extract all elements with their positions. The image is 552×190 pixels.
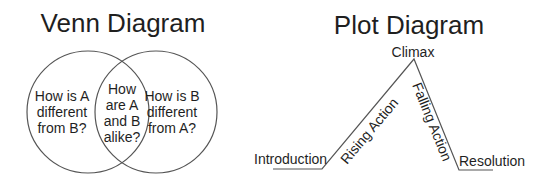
falling-action-label: Falling Action: [409, 80, 455, 163]
venn-middle-line: alike?: [104, 129, 141, 145]
introduction-label: Introduction: [254, 151, 327, 167]
diagram-canvas: Venn Diagram How is A different from B? …: [0, 0, 552, 190]
venn-middle-text: How are A and B alike?: [104, 81, 141, 145]
venn-title: Venn Diagram: [41, 8, 206, 38]
venn-middle-line: and B: [104, 113, 141, 129]
venn-left-text: How is A different from B?: [35, 88, 90, 136]
venn-right-line: How is B: [144, 88, 199, 104]
resolution-label: Resolution: [459, 153, 525, 169]
venn-left-line: different: [37, 104, 87, 120]
plot-title: Plot Diagram: [334, 10, 484, 40]
venn-right-line: different: [147, 104, 197, 120]
venn-middle-line: How: [108, 81, 137, 97]
venn-middle-line: are A: [106, 97, 139, 113]
venn-left-line: How is A: [35, 88, 90, 104]
venn-diagram: Venn Diagram How is A different from B? …: [27, 8, 217, 173]
climax-label: Climax: [392, 44, 435, 60]
venn-right-text: How is B different from A?: [144, 88, 199, 136]
venn-right-line: from A?: [148, 120, 196, 136]
plot-diagram: Plot Diagram Climax Introduction Resolut…: [254, 10, 525, 170]
venn-left-line: from B?: [37, 120, 86, 136]
rising-action-label: Rising Action: [337, 95, 401, 167]
